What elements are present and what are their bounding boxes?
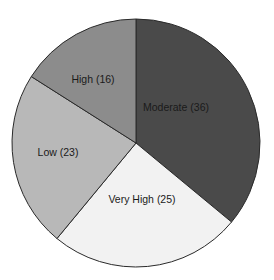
slice-label-very-high: Very High (25) (108, 193, 175, 205)
slice-label-low: Low (23) (38, 146, 79, 158)
pie-slices (12, 19, 260, 267)
slice-label-high: High (16) (71, 73, 114, 85)
pie-chart: Moderate (36) Very High (25) Low (23) Hi… (0, 0, 274, 280)
slice-label-moderate: Moderate (36) (143, 101, 209, 113)
